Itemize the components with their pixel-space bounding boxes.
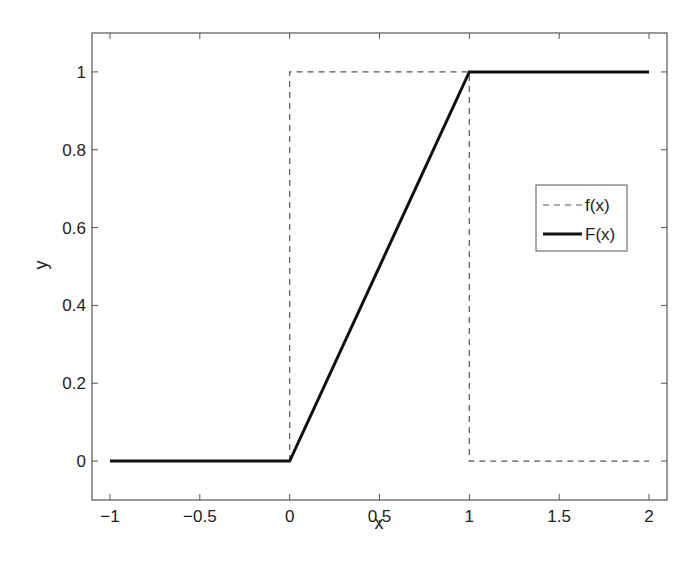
- x-tick-label: −1: [100, 507, 119, 526]
- y-axis-label: y: [31, 261, 51, 270]
- x-tick-label: −0.5: [183, 507, 217, 526]
- legend-label-F: F(x): [585, 225, 615, 244]
- x-tick-label: 1.5: [547, 507, 571, 526]
- x-axis-label: x: [375, 513, 384, 533]
- y-tick-label: 0.2: [62, 374, 86, 393]
- chart-canvas: −1−0.500.511.5200.20.40.60.81 x y f(x) F…: [0, 0, 700, 577]
- legend-label-f: f(x): [585, 196, 610, 215]
- y-tick-label: 0: [77, 452, 86, 471]
- y-tick-label: 0.6: [62, 219, 86, 238]
- y-tick-label: 0.4: [62, 296, 86, 315]
- y-tick-label: 1: [77, 63, 86, 82]
- x-tick-label: 0: [285, 507, 294, 526]
- y-tick-label: 0.8: [62, 141, 86, 160]
- x-tick-label: 1: [465, 507, 474, 526]
- x-tick-label: 2: [644, 507, 653, 526]
- legend: f(x) F(x): [536, 185, 627, 251]
